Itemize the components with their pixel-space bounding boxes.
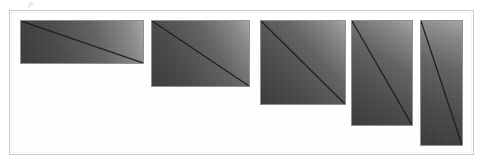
- plate-1: [20, 20, 144, 64]
- gradient-plate-group: [0, 0, 483, 164]
- figure-canvas: [0, 0, 483, 164]
- plate-1-diagonal-line: [21, 21, 143, 63]
- plate-2-diagonal-line: [152, 21, 249, 86]
- plate-5: [420, 20, 463, 146]
- plate-5-diagonal-line: [421, 21, 462, 145]
- plate-3: [260, 20, 346, 105]
- plate-4: [351, 20, 413, 126]
- plate-3-diagonal-line: [261, 21, 345, 104]
- plate-2: [151, 20, 250, 87]
- plate-4-diagonal-line: [352, 21, 412, 125]
